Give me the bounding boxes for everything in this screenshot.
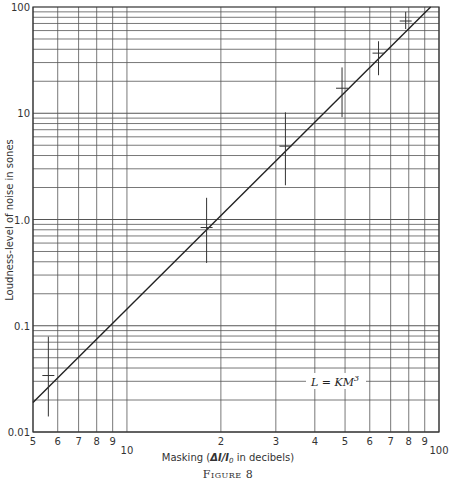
data-point	[336, 67, 348, 117]
y-tick-label: 10	[17, 108, 30, 119]
figure-caption: Figure 8	[203, 468, 253, 481]
x-tick-label: 6	[367, 436, 373, 447]
y-tick-label: 100	[11, 2, 30, 13]
x-tick-label: 7	[387, 436, 393, 447]
loudness-masking-chart: 0.010.11.010100 567891023456789100 L = K…	[0, 0, 454, 482]
formula-text: L = KM3	[310, 374, 359, 389]
y-tick-label: 0.1	[14, 321, 30, 332]
x-tick-label: 100	[429, 445, 448, 456]
data-point	[400, 12, 412, 29]
y-tick-label: 1.0	[14, 215, 30, 226]
x-tick-label: 10	[121, 445, 134, 456]
formula-annotation: L = KM3	[306, 373, 366, 389]
x-tick-label: 5	[342, 436, 348, 447]
data-point	[42, 337, 54, 417]
x-tick-label: 5	[30, 436, 36, 447]
y-axis-label: Loudness-level of noise in sones	[4, 139, 15, 301]
x-tick-label: 8	[406, 436, 412, 447]
data-point	[201, 198, 213, 263]
x-tick-label: 9	[109, 436, 115, 447]
x-tick-label: 8	[94, 436, 100, 447]
fit-line-path	[33, 7, 431, 402]
x-tick-label: 9	[422, 436, 428, 447]
x-tick-label: 4	[312, 436, 318, 447]
y-tick-label: 0.01	[8, 427, 30, 438]
x-tick-label: 3	[273, 436, 279, 447]
fit-line	[33, 7, 431, 402]
x-axis-label: Masking (ΔI/I0 in decibels)	[162, 452, 294, 465]
data-point	[373, 41, 385, 75]
data-points	[42, 12, 411, 417]
x-tick-label: 7	[75, 436, 81, 447]
x-tick-label: 6	[55, 436, 61, 447]
x-tick-label: 2	[218, 436, 224, 447]
